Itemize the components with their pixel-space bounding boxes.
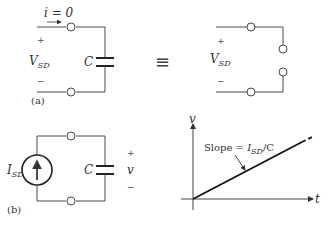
ramp-line-extension [302,136,314,142]
circuit-a-equivalent: + VSD − [210,23,287,96]
b-minus-sign: − [127,182,135,192]
eq-open-terminal-bottom [279,68,287,76]
circuit-a: i = 0 + VSD − C (a) [29,6,114,106]
eq-voltage-label: VSD [210,52,231,68]
b-terminal-bottom [67,197,75,205]
minus-sign: − [37,76,45,86]
terminal-top [67,23,75,31]
eq-terminal-bottom [247,88,255,96]
voltage-label: VSD [29,54,50,70]
eq-terminal-top [247,23,255,31]
v-axis-label: v [189,112,196,126]
diagram-canvas: i = 0 + VSD − C (a) ≡ + VSD − [0,0,335,225]
eq-plus-sign: + [217,36,225,46]
slope-label: Slope = ISD/C [204,142,274,156]
circuit-b: ISD C + v − (b) [6,132,135,215]
eq-minus-sign: − [217,76,225,86]
b-capacitor-label: C [84,163,93,177]
terminal-bottom [67,88,75,96]
part-a-label: (a) [31,95,45,106]
capacitor-label: C [84,55,93,69]
slope-pointer-arrow-icon [235,155,245,170]
current-label: i = 0 [44,6,74,20]
plus-sign: + [37,35,45,45]
b-voltage-label: v [127,163,134,177]
equivalence-symbol: ≡ [155,51,170,72]
part-b-label: (b) [7,204,21,215]
t-axis-label: t [315,192,320,206]
b-terminal-top [67,132,75,140]
voltage-ramp-graph: v t Slope = ISD/C [181,112,320,210]
eq-open-terminal-top [279,45,287,53]
b-plus-sign: + [127,148,135,158]
source-label: ISD [6,163,24,179]
